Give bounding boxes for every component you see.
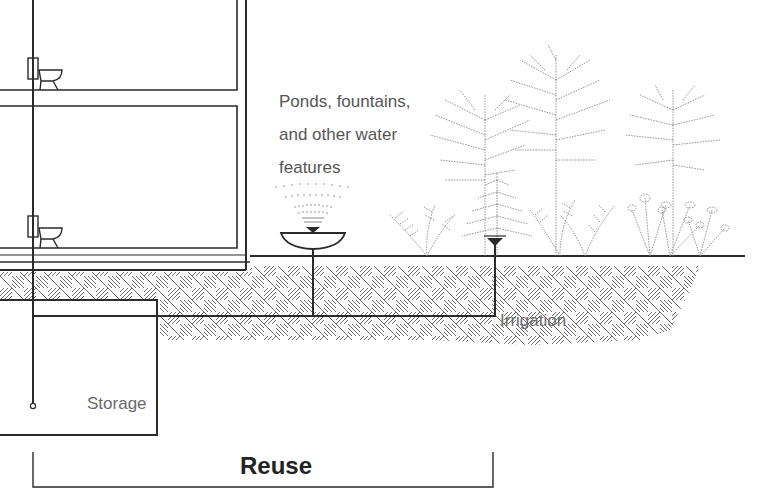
irrigation-label: Irrigation	[500, 311, 566, 330]
features-label-line-1: Ponds, fountains,	[279, 92, 410, 111]
reuse-diagram: Ponds, fountains, and other water featur…	[0, 0, 770, 497]
features-label-line-2: and other water	[279, 125, 397, 144]
reuse-title: Reuse	[240, 452, 312, 479]
features-label: Ponds, fountains, and other water featur…	[279, 92, 410, 177]
features-label-line-3: features	[279, 158, 340, 177]
sprinkler-icon	[484, 236, 506, 246]
storage-label: Storage	[87, 394, 147, 413]
flower-heads	[628, 194, 729, 231]
fountain-icon	[275, 183, 349, 249]
landscape-plants	[390, 45, 725, 256]
